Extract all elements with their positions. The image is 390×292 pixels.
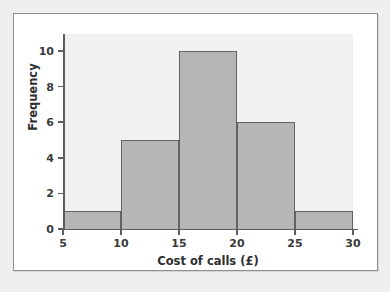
x-tick-label: 15	[164, 238, 194, 249]
x-tick-label: 25	[280, 238, 310, 249]
histogram-bar	[179, 51, 237, 230]
y-tick-label: 0	[28, 224, 54, 235]
x-axis-line	[58, 229, 358, 231]
x-axis-title: Cost of calls (£)	[58, 254, 358, 268]
x-tick-label: 20	[222, 238, 252, 249]
y-tick-label: 2	[28, 188, 54, 199]
y-axis-line	[63, 34, 65, 230]
x-tick-label: 5	[48, 238, 78, 249]
x-tick-label: 10	[106, 238, 136, 249]
x-tick-mark	[294, 229, 296, 235]
histogram-bar	[121, 140, 179, 230]
x-tick-mark	[178, 229, 180, 235]
y-axis-title: Frequency	[26, 47, 40, 147]
y-tick-mark	[58, 86, 63, 88]
y-tick-mark	[58, 157, 63, 159]
x-tick-mark	[62, 229, 64, 235]
y-tick-mark	[58, 50, 63, 52]
histogram-bars	[14, 14, 379, 272]
histogram-figure-card: 0246810 51015202530 Cost of calls (£) Fr…	[13, 13, 378, 271]
y-tick-mark	[58, 121, 63, 123]
x-tick-mark	[120, 229, 122, 235]
histogram-bar	[63, 211, 121, 230]
x-tick-mark	[236, 229, 238, 235]
histogram-bar	[295, 211, 353, 230]
x-tick-label: 30	[338, 238, 368, 249]
y-tick-label: 4	[28, 153, 54, 164]
histogram-bar	[237, 122, 295, 230]
y-tick-mark	[58, 193, 63, 195]
x-tick-mark	[352, 229, 354, 235]
